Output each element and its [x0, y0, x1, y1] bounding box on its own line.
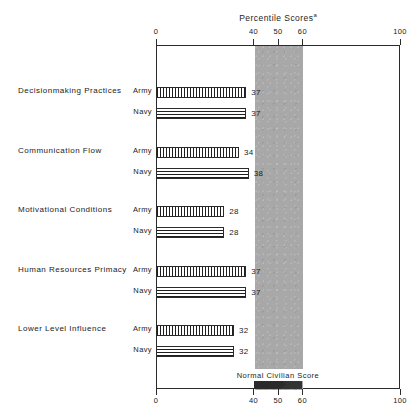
bar-value-label: 32: [239, 326, 249, 335]
axis-tick-top: [278, 39, 279, 45]
chart-figure: Percentile Scoresa Normal Civilian Score…: [0, 0, 420, 419]
axis-tick-top: [400, 39, 401, 45]
band-bottom-shadow: [254, 381, 303, 389]
chart-title-footnote-marker: a: [313, 12, 316, 18]
bar-value-label: 28: [229, 207, 239, 216]
axis-tick-label-top: 60: [298, 27, 307, 36]
normal-civilian-score-band: [255, 46, 304, 390]
bar-army: [156, 206, 224, 217]
bar-value-label: 37: [251, 109, 261, 118]
series-label-army: Army: [118, 324, 152, 333]
normal-civilian-score-label: Normal Civilian Score: [156, 371, 400, 380]
series-label-army: Army: [118, 146, 152, 155]
bar-value-label: 38: [254, 169, 264, 178]
category-label: Motivational Conditions: [18, 205, 112, 214]
chart-title: Percentile Scoresa: [156, 12, 400, 23]
axis-tick-bottom: [400, 389, 401, 395]
axis-tick-label-bottom: 40: [249, 396, 258, 405]
series-label-army: Army: [118, 265, 152, 274]
series-label-army: Army: [118, 86, 152, 95]
bar-army: [156, 266, 246, 277]
series-label-navy: Navy: [118, 167, 152, 176]
category-label: Lower Level Influence: [18, 324, 106, 333]
bar-army: [156, 147, 239, 158]
bar-navy: [156, 227, 224, 238]
bar-army: [156, 325, 234, 336]
bar-value-label: 37: [251, 267, 261, 276]
category-label: Communication Flow: [18, 146, 102, 155]
axis-tick-label-bottom: 0: [154, 396, 159, 405]
bar-value-label: 37: [251, 88, 261, 97]
series-label-navy: Navy: [118, 226, 152, 235]
axis-tick-top: [156, 39, 157, 45]
axis-tick-top: [302, 39, 303, 45]
axis-tick-label-top: 40: [249, 27, 258, 36]
series-label-navy: Navy: [118, 345, 152, 354]
bar-navy: [156, 108, 246, 119]
series-label-navy: Navy: [118, 107, 152, 116]
axis-tick-label-top: 100: [393, 27, 407, 36]
axis-tick-bottom: [156, 389, 157, 395]
bar-value-label: 28: [229, 228, 239, 237]
axis-tick-label-top: 0: [154, 27, 159, 36]
bar-navy: [156, 287, 246, 298]
bar-value-label: 34: [244, 148, 254, 157]
axis-tick-top: [253, 39, 254, 45]
bar-value-label: 32: [239, 347, 249, 356]
chart-title-text: Percentile Scores: [239, 13, 313, 23]
bar-army: [156, 87, 246, 98]
axis-tick-label-bottom: 100: [393, 396, 407, 405]
category-label: Human Resources Primacy: [18, 265, 127, 274]
axis-tick-label-top: 50: [273, 27, 282, 36]
bar-navy: [156, 346, 234, 357]
category-label: Decisionmaking Practices: [18, 86, 122, 95]
axis-tick-label-bottom: 60: [298, 396, 307, 405]
axis-tick-bottom: [278, 389, 279, 395]
series-label-navy: Navy: [118, 286, 152, 295]
bar-navy: [156, 168, 249, 179]
axis-tick-label-bottom: 50: [273, 396, 282, 405]
axis-tick-bottom: [253, 389, 254, 395]
series-label-army: Army: [118, 205, 152, 214]
bar-value-label: 37: [251, 288, 261, 297]
axis-tick-bottom: [302, 389, 303, 395]
